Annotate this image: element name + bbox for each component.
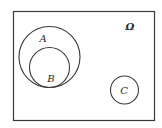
universe-label-omega: Ω <box>125 21 135 32</box>
set-c-label: C <box>120 85 128 96</box>
set-a-label: A <box>38 33 46 44</box>
set-b-label: B <box>46 73 54 84</box>
venn-diagram: Ω A B C <box>0 0 162 128</box>
